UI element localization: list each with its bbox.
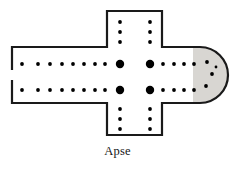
column-dot: [118, 40, 122, 44]
crossing-piers: [116, 60, 154, 94]
column-dot: [148, 117, 152, 121]
column-dot: [60, 88, 64, 92]
north-transept-columns: [118, 20, 152, 44]
column-dot: [118, 117, 122, 121]
northwest-pier: [116, 60, 124, 68]
column-dot: [161, 62, 165, 66]
column-dot: [118, 20, 122, 24]
column-dot: [93, 62, 97, 66]
column-dot: [148, 40, 152, 44]
column-dot: [172, 62, 176, 66]
column-dot: [182, 88, 186, 92]
column-dot: [48, 88, 52, 92]
column-dot: [118, 30, 122, 34]
south-transept-columns: [118, 107, 152, 131]
southwest-pier: [116, 86, 124, 94]
column-dot: [172, 88, 176, 92]
column-dot: [36, 88, 40, 92]
nave-lower-columns: [20, 88, 107, 92]
column-dot: [48, 62, 52, 66]
column-dot: [20, 62, 24, 66]
northeast-pier: [146, 60, 154, 68]
column-dot: [82, 62, 86, 66]
column-dot: [215, 66, 218, 69]
column-dot: [192, 62, 196, 66]
column-dot: [60, 62, 64, 66]
nave-upper-columns: [20, 62, 107, 66]
south-wall: [12, 80, 200, 135]
column-dot: [71, 62, 75, 66]
column-dot: [148, 20, 152, 24]
chancel-lower-columns: [150, 88, 196, 92]
column-dot: [36, 62, 40, 66]
column-dot: [210, 72, 214, 76]
column-dot: [103, 88, 107, 92]
column-dot: [182, 62, 186, 66]
column-dot: [161, 88, 165, 92]
column-dot: [118, 127, 122, 131]
column-dot: [118, 107, 122, 111]
column-dot: [148, 127, 152, 131]
column-dot: [71, 88, 75, 92]
column-dot: [192, 88, 196, 92]
column-dot: [93, 88, 97, 92]
apse-caption-label: Apse: [0, 144, 235, 159]
church-floor-plan-figure: Apse: [0, 0, 235, 174]
column-dot: [20, 88, 24, 92]
column-dot: [204, 84, 208, 88]
column-dot: [82, 88, 86, 92]
southeast-pier: [146, 86, 154, 94]
chancel-upper-columns: [150, 62, 196, 66]
column-dot: [148, 30, 152, 34]
column-dot: [148, 107, 152, 111]
column-dot: [103, 62, 107, 66]
column-dot: [205, 60, 209, 64]
